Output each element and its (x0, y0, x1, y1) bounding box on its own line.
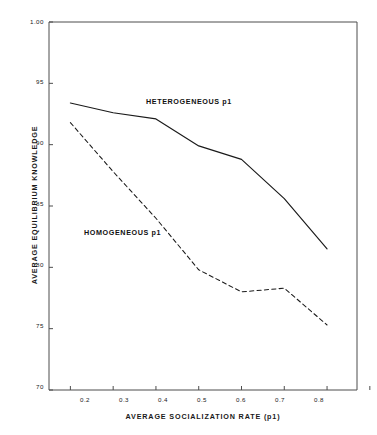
series-annotation-heterogeneous: HETEROGENEOUS p1 (146, 97, 232, 106)
x-tick-label-0.2: 0.2 (72, 396, 98, 403)
x-axis-title: AVERAGE SOCIALIZATION RATE (p1) (49, 412, 357, 421)
series-line-homogeneous (70, 123, 327, 325)
y-tick-label-90: 90 (18, 139, 44, 146)
x-tick-label-0.7: 0.7 (267, 396, 293, 403)
x-tick-marks (70, 386, 369, 390)
x-tick-label-0.5: 0.5 (189, 396, 215, 403)
x-tick-label-0.4: 0.4 (150, 396, 176, 403)
y-tick-label-95: 95 (18, 78, 44, 85)
y-tick-label-70: 70 (18, 383, 44, 390)
x-tick-label-0.6: 0.6 (228, 396, 254, 403)
chart-figure: AVERAGE EQUILIBRIUM KNOWLEDGE AVERAGE SO… (0, 0, 377, 435)
y-tick-label-85: 85 (18, 200, 44, 207)
axis-frame (49, 22, 357, 390)
x-tick-label-0.8: 0.8 (306, 396, 332, 403)
y-tick-label-80: 80 (18, 261, 44, 268)
y-tick-marks (49, 22, 53, 390)
y-tick-label-75: 75 (18, 322, 44, 329)
series-annotation-homogeneous: HOMOGENEOUS p1 (84, 228, 161, 237)
y-tick-label-100: 1.00 (18, 18, 44, 25)
plot-area (0, 0, 377, 435)
x-tick-label-0.3: 0.3 (111, 396, 137, 403)
